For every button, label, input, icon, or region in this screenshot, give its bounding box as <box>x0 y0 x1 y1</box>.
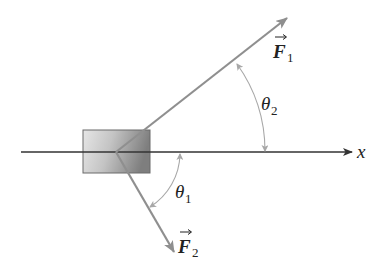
vector-arrow-icon <box>275 35 287 40</box>
force-f1-arrow <box>116 18 287 152</box>
vector-arrow-icon <box>180 230 192 235</box>
svg-text:1: 1 <box>287 50 294 65</box>
svg-text:F: F <box>177 236 191 257</box>
force-f2-label: F 2 <box>177 230 199 261</box>
force-diagram: x F 1 F 2 θ 2 θ 1 <box>0 0 384 264</box>
svg-text:θ: θ <box>175 181 184 202</box>
x-axis-label: x <box>356 141 366 162</box>
svg-text:2: 2 <box>271 103 278 118</box>
svg-text:1: 1 <box>185 191 192 206</box>
theta1-label: θ 1 <box>175 181 192 206</box>
theta2-label: θ 2 <box>261 93 278 118</box>
force-f1-label: F 1 <box>272 35 294 66</box>
svg-text:F: F <box>272 41 286 62</box>
svg-text:θ: θ <box>261 93 270 114</box>
svg-text:2: 2 <box>192 245 199 260</box>
